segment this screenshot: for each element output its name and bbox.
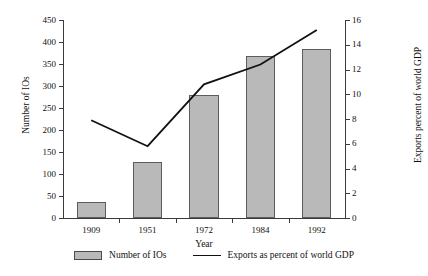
- right-axis-tick-label: 2: [352, 189, 386, 198]
- right-axis-tick: [346, 218, 350, 219]
- bar: [77, 202, 106, 218]
- right-axis-tick-label: 4: [352, 164, 386, 173]
- x-axis-line: [63, 218, 346, 219]
- legend-item-line: Exports as percent of world GDP: [193, 250, 354, 260]
- bar: [189, 95, 218, 218]
- bar: [302, 49, 331, 218]
- x-axis-tick: [119, 219, 120, 223]
- right-axis-tick: [346, 144, 350, 145]
- bar-swatch-icon: [74, 251, 102, 260]
- chart-container: Number of IOs Exports percent of world G…: [0, 0, 428, 276]
- right-axis-tick-label: 16: [352, 16, 386, 25]
- right-axis-tick-label: 14: [352, 40, 386, 49]
- right-axis-tick: [346, 94, 350, 95]
- x-axis-tick: [232, 219, 233, 223]
- left-axis-tick-label: 50: [22, 192, 56, 201]
- bar: [133, 162, 162, 218]
- right-axis-title: Exports percent of world GDP: [413, 20, 423, 190]
- left-axis-tick: [59, 218, 63, 219]
- bar: [246, 56, 275, 218]
- left-axis-tick-label: 400: [22, 38, 56, 47]
- line-swatch-icon: [193, 255, 221, 256]
- right-axis-tick-label: 12: [352, 65, 386, 74]
- x-axis-tick-label: 1984: [230, 226, 290, 235]
- right-axis-tick-label: 0: [352, 214, 386, 223]
- legend-label-bars: Number of IOs: [109, 250, 167, 260]
- left-axis-tick-label: 450: [22, 16, 56, 25]
- x-axis-tick: [176, 219, 177, 223]
- x-axis-tick-label: 1951: [118, 226, 178, 235]
- left-axis-tick-label: 200: [22, 126, 56, 135]
- right-axis-tick: [346, 20, 350, 21]
- left-axis-tick-label: 0: [22, 214, 56, 223]
- legend-label-line: Exports as percent of world GDP: [228, 250, 354, 260]
- right-axis-tick-label: 6: [352, 139, 386, 148]
- left-axis-tick-label: 100: [22, 170, 56, 179]
- right-axis-tick-label: 8: [352, 115, 386, 124]
- x-axis-tick: [289, 219, 290, 223]
- left-axis-tick-label: 250: [22, 104, 56, 113]
- x-axis-tick-label: 1992: [287, 226, 347, 235]
- left-axis-tick-label: 300: [22, 82, 56, 91]
- chart-legend: Number of IOs Exports as percent of worl…: [0, 250, 428, 260]
- legend-item-bars: Number of IOs: [74, 250, 167, 260]
- x-axis-tick-label: 1909: [61, 226, 121, 235]
- left-axis-tick-label: 150: [22, 148, 56, 157]
- x-axis-title: Year: [174, 239, 234, 249]
- right-axis-tick: [346, 119, 350, 120]
- x-axis-tick-label: 1972: [174, 226, 234, 235]
- right-axis-tick-label: 10: [352, 90, 386, 99]
- left-axis-tick-label: 350: [22, 60, 56, 69]
- right-axis-tick: [346, 169, 350, 170]
- right-axis-tick: [346, 193, 350, 194]
- plot-area: [63, 20, 345, 218]
- right-axis-tick: [346, 45, 350, 46]
- right-axis-tick: [346, 70, 350, 71]
